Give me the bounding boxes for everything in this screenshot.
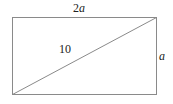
geometry-figure: 2a a 10 — [0, 0, 173, 104]
diagonal-length-label: 10 — [59, 43, 71, 55]
width-label: 2a — [73, 2, 85, 14]
diagonal-line — [13, 18, 157, 95]
width-label-variable: a — [79, 1, 85, 15]
rectangle-diagram-svg — [0, 0, 173, 104]
diagonal-length-value: 10 — [59, 42, 71, 56]
height-label-variable: a — [159, 49, 165, 63]
height-label: a — [159, 50, 165, 62]
